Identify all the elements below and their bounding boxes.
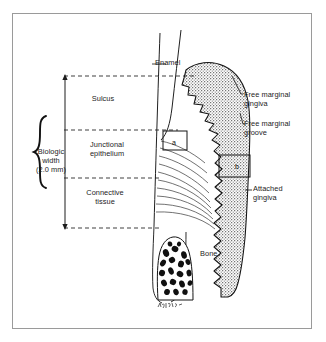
label-junctional-epithelium: Junctional epithelium (72, 140, 142, 158)
label-enamel: Enamel (155, 58, 201, 67)
label-attached-gingiva: Attached gingiva (253, 184, 317, 202)
figure-root: Biologic width (2.0 mm) Sulcus Junctiona… (0, 0, 326, 342)
callout-label-b: b (235, 163, 239, 170)
label-bone: Bone (200, 249, 234, 258)
alveolar-bone (157, 237, 193, 300)
connective-tissue-fibers (156, 141, 215, 229)
artist-signature (158, 303, 182, 308)
label-sulcus: Sulcus (72, 94, 134, 103)
label-free-marginal-groove: Free marginal groove (244, 119, 316, 137)
label-connective-tissue: Connective tissue (72, 188, 138, 206)
label-free-marginal-gingiva: Free marginal gingiva (244, 90, 316, 108)
callout-label-a: a (172, 139, 176, 146)
gingiva-body (182, 63, 250, 297)
